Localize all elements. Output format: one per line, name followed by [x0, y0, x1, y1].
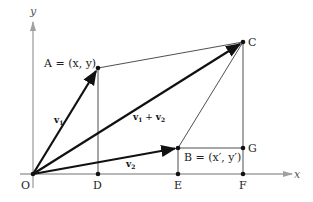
point-G	[241, 146, 246, 151]
vector-diagram: x y O A = (x, y) B = (x′, y′) C D E F G	[0, 0, 313, 202]
point-A	[96, 66, 101, 71]
line-B-C	[178, 42, 243, 148]
point-B	[176, 146, 181, 151]
label-B: B = (x′, y′)	[184, 151, 241, 164]
point-F	[241, 172, 246, 177]
label-O: O	[21, 179, 30, 192]
label-D: D	[93, 179, 102, 192]
axes: x y	[20, 5, 301, 188]
point-C	[241, 40, 246, 45]
label-v2: v2	[125, 159, 135, 170]
label-v1: v1	[53, 115, 63, 126]
label-E: E	[174, 179, 182, 192]
point-E	[176, 172, 181, 177]
point-labels: O A = (x, y) B = (x′, y′) C D E F G	[21, 36, 257, 192]
label-v1-plus-v2: v1 + v2	[132, 112, 165, 123]
point-D	[96, 172, 101, 177]
vector-v1	[33, 71, 96, 174]
y-axis-label: y	[29, 5, 37, 18]
x-axis-label: x	[294, 168, 301, 181]
label-C: C	[248, 36, 256, 49]
point-O	[31, 172, 36, 177]
label-A: A = (x, y)	[43, 57, 96, 70]
label-G: G	[248, 142, 257, 155]
label-F: F	[239, 179, 247, 192]
